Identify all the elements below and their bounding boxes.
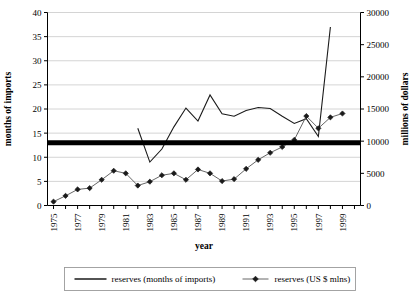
chart-container: 0510152025303540050001000015000200002500… — [0, 0, 417, 299]
y-axis-right-tick-label: 15000 — [367, 104, 390, 114]
x-axis-tick-label: 1987 — [193, 213, 203, 232]
y-axis-left-tick-label: 35 — [33, 32, 43, 42]
y-axis-right-tick-label: 20000 — [367, 72, 390, 82]
y-axis-right-tick-label: 0 — [367, 201, 372, 211]
y-axis-left-tick-label: 15 — [33, 129, 43, 139]
legend: reserves (months of imports)reserves (US… — [65, 268, 356, 291]
x-axis-tick-label: 1991 — [241, 213, 251, 231]
y-axis-left-tick-label: 25 — [33, 80, 43, 90]
y-axis-left-tick-label: 40 — [33, 8, 43, 18]
reserves-chart: 0510152025303540050001000015000200002500… — [0, 0, 417, 299]
y-axis-left-title: months of imports — [3, 71, 13, 146]
data-point-marker — [207, 171, 212, 176]
data-point-marker — [268, 150, 273, 155]
x-axis-tick-label: 1985 — [169, 213, 179, 232]
x-axis-ticks: 1975197719791981198319851987198919911993… — [49, 206, 355, 232]
y-axis-left-tick-label: 5 — [37, 177, 42, 187]
x-axis-tick-label: 1975 — [49, 213, 59, 232]
y-axis-right-tick-label: 25000 — [367, 40, 390, 50]
data-point-marker — [63, 193, 68, 198]
data-point-marker — [340, 111, 345, 116]
data-point-marker — [147, 179, 152, 184]
legend-label-us-dollars: reserves (US $ mlns) — [275, 274, 351, 284]
y-axis-right-title: millions of dollars — [400, 72, 410, 145]
data-point-marker — [159, 173, 164, 178]
y-axis-left-tick-label: 30 — [33, 56, 43, 66]
gridlines — [48, 13, 361, 182]
y-axis-right-tick-label: 30000 — [367, 8, 390, 18]
data-point-marker — [75, 187, 80, 192]
x-axis-tick-label: 1977 — [73, 213, 83, 232]
x-axis-tick-label: 1981 — [121, 214, 131, 232]
y-axis-left-tick-label: 10 — [33, 153, 43, 163]
x-axis-tick-label: 1989 — [217, 213, 227, 232]
data-point-marker — [51, 199, 56, 204]
data-point-marker — [219, 178, 224, 183]
x-axis-tick-label: 1979 — [97, 213, 107, 232]
x-axis-tick-label: 1993 — [265, 213, 275, 232]
legend-label-months-of-imports: reserves (months of imports) — [112, 274, 216, 284]
y-axis-right-tick-label: 5000 — [367, 169, 386, 179]
x-axis-title: year — [195, 241, 214, 251]
x-axis-tick-label: 1995 — [289, 213, 299, 232]
y-axis-right-tick-label: 10000 — [367, 137, 390, 147]
series-group — [51, 27, 345, 204]
x-axis-tick-label: 1997 — [314, 213, 324, 232]
y-axis-left-tick-label: 20 — [33, 104, 43, 114]
data-point-marker — [171, 171, 176, 176]
y-axis-left-tick-label: 0 — [37, 201, 42, 211]
data-point-marker — [87, 186, 92, 191]
x-axis-tick-label: 1983 — [145, 213, 155, 232]
x-axis-tick-label: 1999 — [338, 213, 348, 232]
y-axis-right-ticks: 050001000015000200002500030000 — [361, 8, 390, 211]
y-axis-left-ticks: 0510152025303540 — [33, 8, 48, 211]
